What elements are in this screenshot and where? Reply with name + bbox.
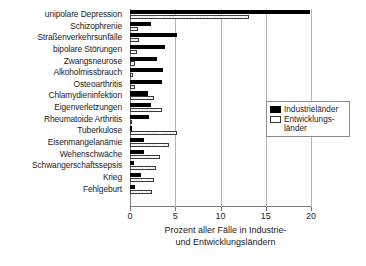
bar-row xyxy=(130,56,311,68)
category-label: Tuberkulose xyxy=(0,125,126,137)
bar-entwicklungslaender xyxy=(130,61,135,65)
bar-row xyxy=(130,67,311,79)
bar-entwicklungslaender xyxy=(130,108,162,112)
bar-entwicklungslaender xyxy=(130,27,138,31)
bar-row xyxy=(130,9,311,21)
bar-row xyxy=(130,184,311,196)
bar-row xyxy=(130,79,311,91)
x-axis-title: Prozent aller Fälle in Industrie- und En… xyxy=(118,225,333,248)
bar-industrielaender xyxy=(130,33,177,37)
category-label: Schwangerschaftssepsis xyxy=(0,160,126,172)
bar-entwicklungslaender xyxy=(130,131,177,135)
bar-entwicklungslaender xyxy=(130,38,139,42)
bar-entwicklungslaender xyxy=(130,120,132,124)
category-label: Zwangsneurose xyxy=(0,56,126,68)
bar-entwicklungslaender xyxy=(130,155,160,159)
bar-entwicklungslaender xyxy=(130,50,137,54)
bar-entwicklungslaender xyxy=(130,190,152,194)
bar-industrielaender xyxy=(130,22,151,26)
bar-entwicklungslaender xyxy=(130,96,154,100)
x-tick-15 xyxy=(266,207,267,211)
bar-industrielaender xyxy=(130,91,148,95)
x-tick-label: 20 xyxy=(306,211,316,221)
category-label: unipolare Depression xyxy=(0,9,126,21)
bar-entwicklungslaender xyxy=(130,143,169,147)
x-tick-label: 0 xyxy=(127,211,132,221)
x-tick-label: 5 xyxy=(173,211,178,221)
bar-industrielaender xyxy=(130,138,144,142)
bar-row xyxy=(130,32,311,44)
x-axis-title-line1: Prozent aller Fälle in Industrie- xyxy=(118,225,333,237)
legend-swatch-icon-entwicklungslaender xyxy=(270,116,281,123)
bar-industrielaender xyxy=(130,173,141,177)
bar-entwicklungslaender xyxy=(130,73,133,77)
bar-row xyxy=(130,21,311,33)
bar-industrielaender xyxy=(130,126,132,130)
x-axis-title-line2: und Entwicklungsländern xyxy=(118,237,333,249)
category-label: Straßenverkehrsunfälle xyxy=(0,32,126,44)
bar-row xyxy=(130,160,311,172)
bar-entwicklungslaender xyxy=(130,178,154,182)
legend-label-entwicklungslaender: Entwicklungs- länder xyxy=(284,115,335,133)
category-label: Krieg xyxy=(0,172,126,184)
x-axis-tick-labels: 05101520 xyxy=(0,211,366,225)
bar-entwicklungslaender xyxy=(130,85,135,89)
bar-industrielaender xyxy=(130,80,162,84)
category-label: Rheumatoide Arthritis xyxy=(0,114,126,126)
legend-swatch-icon-industrielaender xyxy=(270,106,281,113)
category-axis-labels: unipolare DepressionSchizophrenieStraßen… xyxy=(0,9,126,207)
x-tick-20 xyxy=(311,207,312,211)
x-tick-0 xyxy=(130,207,131,211)
category-label: bipolare Störungen xyxy=(0,44,126,56)
bar-industrielaender xyxy=(130,57,157,61)
bar-row xyxy=(130,172,311,184)
bar-industrielaender xyxy=(130,68,163,72)
x-tick-label: 10 xyxy=(215,211,225,221)
category-label: Fehlgeburt xyxy=(0,184,126,196)
category-label: Wehenschwäche xyxy=(0,149,126,161)
category-label: Eisenmangelanämie xyxy=(0,137,126,149)
x-tick-label: 15 xyxy=(261,211,271,221)
bar-chart: unipolare DepressionSchizophrenieStraßen… xyxy=(0,0,366,266)
legend: Industrieländer Entwicklungs- länder xyxy=(266,101,350,137)
bar-industrielaender xyxy=(130,185,135,189)
bar-row xyxy=(130,149,311,161)
category-label: Chlamydieninfektion xyxy=(0,90,126,102)
x-tick-5 xyxy=(175,207,176,211)
bar-industrielaender xyxy=(130,45,165,49)
bar-row xyxy=(130,44,311,56)
bar-entwicklungslaender xyxy=(130,15,249,19)
bar-industrielaender xyxy=(130,103,151,107)
bar-industrielaender xyxy=(130,161,134,165)
x-tick-10 xyxy=(221,207,222,211)
legend-label-industrielaender: Industrieländer xyxy=(284,105,338,114)
bar-entwicklungslaender xyxy=(130,166,156,170)
bar-row xyxy=(130,137,311,149)
bar-industrielaender xyxy=(130,10,310,14)
category-label: Alkoholmissbrauch xyxy=(0,67,126,79)
category-label: Osteoarthritis xyxy=(0,79,126,91)
category-label: Schizophrenie xyxy=(0,21,126,33)
bar-industrielaender xyxy=(130,150,144,154)
bar-industrielaender xyxy=(130,115,149,119)
legend-item-entwicklungslaender: Entwicklungs- länder xyxy=(270,115,346,133)
category-label: Eigenverletzungen xyxy=(0,102,126,114)
legend-item-industrielaender: Industrieländer xyxy=(270,105,346,114)
